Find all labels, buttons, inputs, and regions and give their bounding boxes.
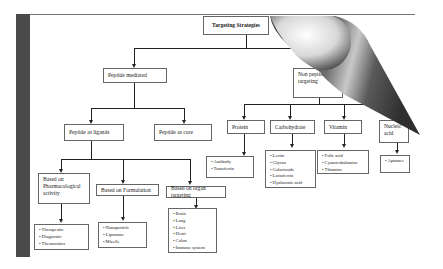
- page-curl-decoration: [0, 0, 443, 269]
- targeting-strategies-diagram: Targeting Strategies Peptide mediated No…: [0, 0, 443, 269]
